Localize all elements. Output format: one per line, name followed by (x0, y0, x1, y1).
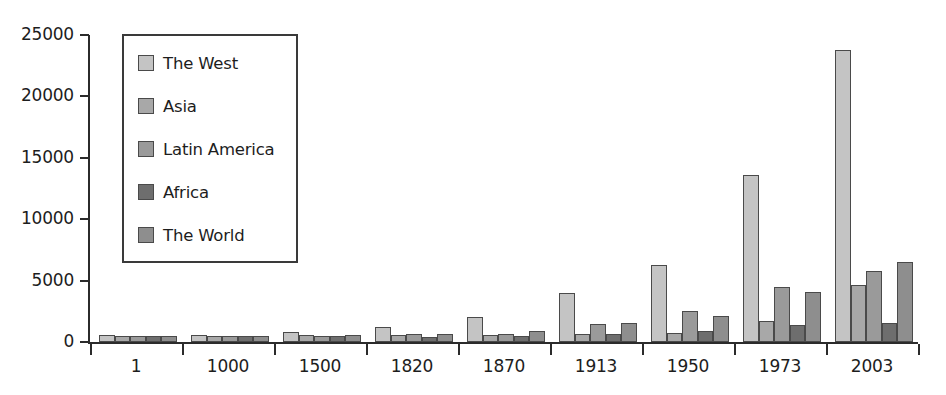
x-axis-tick-label: 1913 (551, 358, 641, 375)
legend-swatch-icon (138, 98, 154, 114)
bar (345, 335, 361, 342)
bar (299, 335, 315, 342)
bar (437, 334, 453, 342)
bar (283, 332, 299, 342)
bar (483, 335, 499, 342)
bar (207, 336, 223, 342)
bar (759, 321, 775, 342)
x-axis-tick (366, 344, 368, 355)
bar (606, 334, 622, 342)
bar (790, 325, 806, 342)
bar (529, 331, 545, 342)
x-axis-tick-label: 1 (91, 358, 181, 375)
bar (99, 335, 115, 342)
x-axis-tick (826, 344, 828, 355)
bar (743, 175, 759, 342)
bar (406, 334, 422, 342)
x-axis-tick-label: 1820 (367, 358, 457, 375)
x-axis-tick-label: 2003 (827, 358, 917, 375)
legend-item[interactable]: The World (138, 225, 244, 245)
legend-swatch-icon (138, 55, 154, 71)
x-axis-tick (458, 344, 460, 355)
bar (498, 334, 514, 342)
bar (375, 327, 391, 342)
legend-item[interactable]: The West (138, 53, 238, 73)
legend-item[interactable]: Latin America (138, 139, 275, 159)
legend-swatch-icon (138, 141, 154, 157)
bar (698, 331, 714, 342)
bar (514, 336, 530, 342)
bar (314, 336, 330, 342)
bar (621, 323, 637, 342)
bar (238, 336, 254, 342)
x-axis-tick (90, 344, 92, 355)
bar (897, 262, 913, 342)
legend-item[interactable]: Africa (138, 182, 209, 202)
chart-legend: The WestAsiaLatin AmericaAfricaThe World (122, 34, 298, 263)
x-axis-tick (274, 344, 276, 355)
bar (866, 271, 882, 342)
legend-item[interactable]: Asia (138, 96, 197, 116)
bar (191, 335, 207, 342)
bar (651, 265, 667, 342)
bar (222, 336, 238, 342)
bar (391, 335, 407, 342)
bar (851, 285, 867, 342)
x-axis-tick (918, 344, 920, 355)
bar (161, 336, 177, 342)
legend-swatch-icon (138, 227, 154, 243)
bar (146, 336, 162, 342)
x-axis-tick (550, 344, 552, 355)
bar (422, 337, 438, 342)
bar (575, 334, 591, 342)
x-axis-tick (182, 344, 184, 355)
bar (835, 50, 851, 342)
x-axis-tick (642, 344, 644, 355)
x-axis-tick-label: 1000 (183, 358, 273, 375)
legend-item-label: Latin America (163, 140, 275, 159)
legend-item-label: The World (163, 226, 244, 245)
bar (774, 287, 790, 342)
bar (130, 336, 146, 342)
x-axis-tick-label: 1950 (643, 358, 733, 375)
x-axis-tick-label: 1870 (459, 358, 549, 375)
bar (467, 317, 483, 342)
bar (667, 333, 683, 342)
bar (590, 324, 606, 342)
bar (559, 293, 575, 342)
x-axis-tick (734, 344, 736, 355)
legend-item-label: Africa (163, 183, 209, 202)
bar-chart: 0500010000150002000025000 11000150018201… (0, 0, 946, 395)
bar (330, 336, 346, 342)
bar (882, 323, 898, 342)
legend-item-label: Asia (163, 97, 197, 116)
bar (805, 292, 821, 342)
bar (115, 336, 131, 342)
x-axis-tick-label: 1973 (735, 358, 825, 375)
legend-item-label: The West (163, 54, 238, 73)
bar (713, 316, 729, 342)
legend-swatch-icon (138, 184, 154, 200)
bar (682, 311, 698, 342)
bar (253, 336, 269, 342)
x-axis-tick-label: 1500 (275, 358, 365, 375)
